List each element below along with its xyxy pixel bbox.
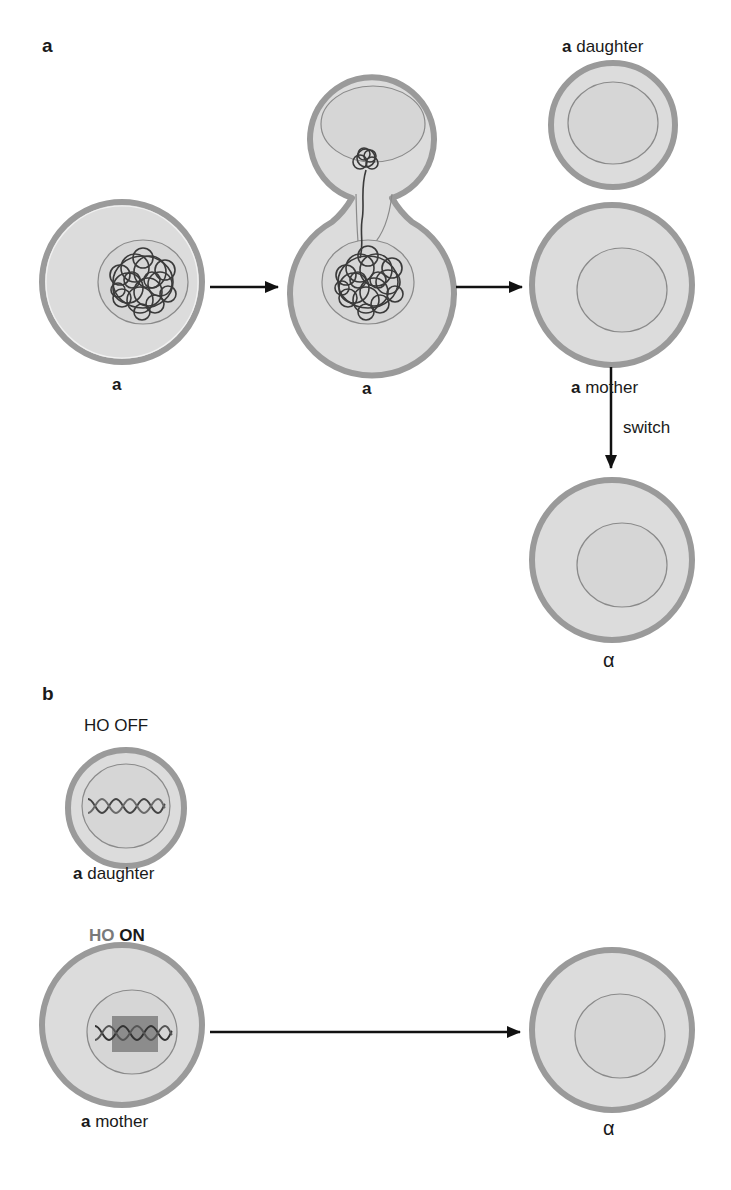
- ho-on-label: HO ON: [89, 927, 145, 944]
- cell-a-mother: [532, 205, 692, 365]
- nucleus: [98, 240, 188, 324]
- cell-a-daughter: [551, 63, 675, 187]
- mother-label: a mother: [571, 379, 638, 396]
- alpha-b-label: α: [603, 1118, 615, 1138]
- cell-alpha: [532, 480, 692, 640]
- daughter-b-label: a daughter: [73, 865, 154, 882]
- budding-cell-label: a: [362, 380, 371, 397]
- ho-gene-highlight: [112, 1016, 158, 1052]
- panel-a-label: a: [42, 36, 53, 55]
- cell1-label: a: [112, 376, 121, 393]
- cell-alpha-b: [532, 950, 692, 1110]
- switch-label: switch: [623, 419, 670, 436]
- cell-a-haploid: [42, 202, 202, 362]
- ho-off-label: HO OFF: [84, 717, 148, 734]
- panel-b-label: b: [42, 684, 54, 703]
- cell-a-mother-ho-on: [42, 945, 202, 1105]
- alpha-label: α: [603, 650, 615, 670]
- yeast-mating-type-switch-diagram: [0, 0, 731, 1190]
- mother-b-label: a mother: [81, 1113, 148, 1130]
- daughter-label: a daughter: [562, 38, 643, 55]
- budding-cell: [290, 77, 454, 375]
- cell-a-daughter-ho-off: [68, 750, 184, 866]
